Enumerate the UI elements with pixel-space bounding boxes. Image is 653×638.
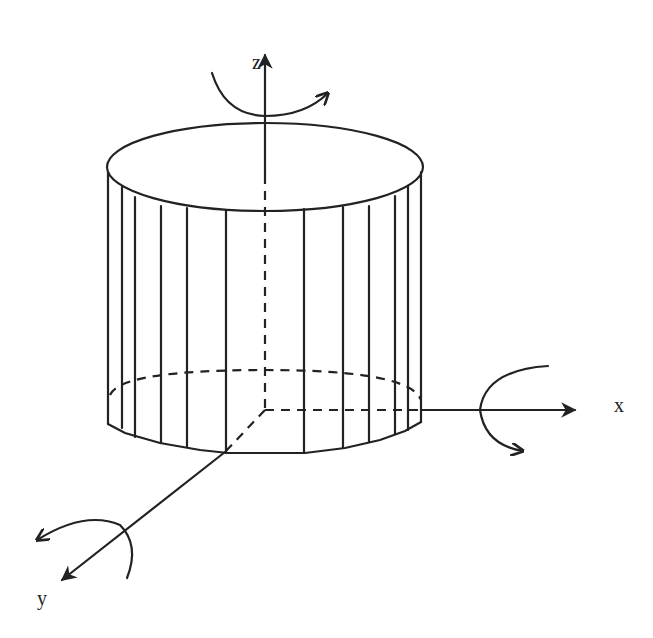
- z-rotation-arrow: [212, 73, 328, 116]
- y-rotation-arrow: [37, 520, 132, 578]
- x-rotation-arrow: [480, 366, 548, 451]
- y-axis-label: y: [37, 587, 47, 610]
- z-axis-label: z: [252, 51, 261, 73]
- hidden-lines: [110, 175, 421, 452]
- x-axis-label: x: [614, 394, 624, 416]
- cylinder-diagram: z x y: [0, 0, 653, 638]
- z-axis: z: [212, 51, 328, 175]
- bottom-edge: [108, 422, 421, 453]
- y-axis: y: [37, 452, 225, 610]
- x-axis: x: [421, 366, 624, 451]
